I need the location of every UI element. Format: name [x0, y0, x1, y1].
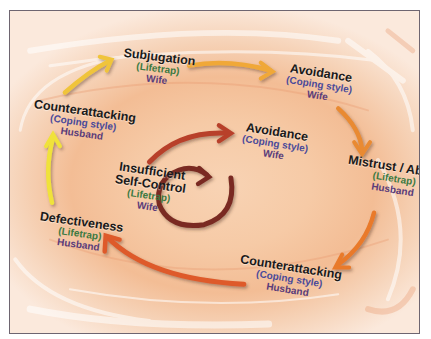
circular-arrow-icon — [160, 169, 238, 231]
top-cropped-strip — [0, 0, 431, 10]
diagram-frame: Defectiveness (Lifetrap) Husband Counter… — [9, 10, 420, 334]
arrow-yellow — [48, 138, 53, 203]
